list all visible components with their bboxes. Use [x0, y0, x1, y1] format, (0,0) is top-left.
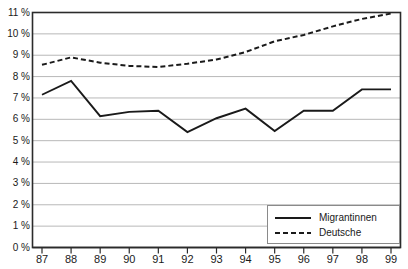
x-axis-tick-label: 93 — [205, 254, 229, 265]
x-axis-tick-label: 94 — [234, 254, 258, 265]
chart-legend: Migrantinnen Deutsche — [267, 205, 400, 244]
legend-swatch-dashed-icon — [274, 226, 312, 240]
chart-container: 11 %10 %9 %8 %7 %6 %5 %4 %3 %2 %1 %0 % 8… — [0, 0, 408, 269]
x-axis-tick-label: 92 — [175, 254, 199, 265]
x-axis-tick-label: 97 — [321, 254, 345, 265]
legend-label-migrantinnen: Migrantinnen — [319, 212, 377, 224]
x-axis-tick-label: 90 — [117, 254, 141, 265]
x-axis-tick-label: 95 — [263, 254, 287, 265]
x-axis-tick-label: 89 — [88, 254, 112, 265]
x-axis-tick-label: 98 — [350, 254, 374, 265]
x-axis-tick-label: 99 — [379, 254, 403, 265]
x-axis-tick-label: 96 — [292, 254, 316, 265]
x-axis-tick-label: 91 — [146, 254, 170, 265]
legend-label-deutsche: Deutsche — [319, 227, 361, 239]
legend-swatch-solid-icon — [274, 211, 312, 225]
x-axis-tick-label: 87 — [30, 254, 54, 265]
x-axis-tick-label: 88 — [59, 254, 83, 265]
